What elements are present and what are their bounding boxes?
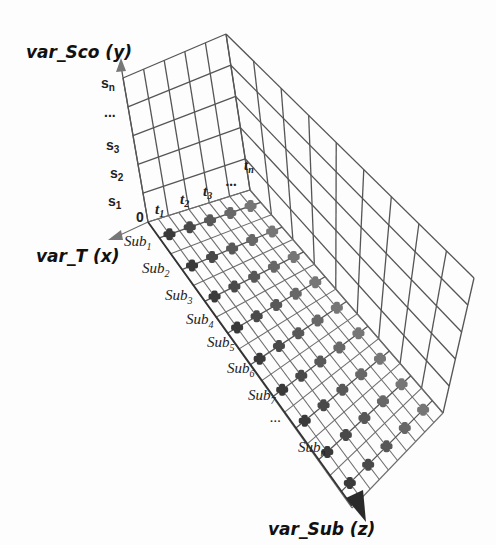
x-axis-arrow-icon [108, 230, 123, 240]
data-marker-icon [184, 221, 196, 233]
back-wall-vertical-line [164, 60, 189, 209]
z-axis-title: var_Sub (z) [268, 519, 375, 539]
data-marker-icon [204, 214, 216, 226]
z-tick-label: Sub2 [142, 260, 170, 279]
data-marker-icon [292, 327, 304, 339]
data-marker-icon [254, 353, 266, 365]
right-wall-vertical-line [443, 278, 474, 413]
back-wall-vertical-line [185, 52, 209, 203]
data-marker-icon [312, 315, 324, 327]
data-marker-icon [224, 207, 236, 219]
data-marker-icon [268, 261, 280, 273]
data-marker-icon [226, 242, 238, 254]
back-wall-vertical-line [144, 69, 169, 215]
z-tick-label: Subn [298, 439, 326, 458]
y-tick-label: s2 [110, 165, 124, 183]
right-wall-vertical-line [309, 115, 315, 264]
z-tick-label: Sub4 [186, 311, 214, 330]
data-marker-icon [251, 310, 263, 322]
y-axis-line [121, 66, 148, 222]
y-axis-title: var_Sco (y) [26, 42, 132, 62]
x-tick-label: ... [226, 173, 237, 189]
data-marker-icon [314, 356, 326, 368]
y-tick-label: s1 [108, 193, 122, 211]
y-tick-label: ... [104, 104, 116, 120]
right-wall-vertical-line [281, 88, 293, 239]
tick-labels: s1s2s3...snt1t2t3...tnSub1Sub2Sub3Sub4Su… [101, 75, 326, 458]
y-tick-label: sn [101, 75, 115, 93]
right-wall-vertical-line [254, 61, 272, 215]
y-tick-label: s3 [106, 137, 120, 155]
x-tick-label: t1 [155, 201, 164, 219]
data-marker-icon [186, 259, 198, 271]
right-wall-vertical-line [357, 170, 364, 314]
floor-line-t [193, 240, 293, 286]
x-axis-title: var_T (x) [36, 246, 119, 266]
data-marker-icon [333, 341, 345, 353]
data-marker-icon [163, 228, 175, 240]
z-tick-label: Sub3 [165, 287, 193, 306]
x-tick-label: t3 [203, 183, 212, 201]
z-axis-arrow-icon [346, 490, 366, 522]
data-marker-icon [295, 370, 307, 382]
back-wall-horizontal-line [138, 128, 240, 165]
x-tick-label: t2 [180, 191, 189, 209]
data-marker-icon [209, 290, 221, 302]
z-tick-label: Sub6 [227, 360, 255, 379]
data-marker-icon [246, 234, 258, 246]
x-tick-label: tn [244, 157, 254, 175]
right-wall-vertical-line [379, 197, 392, 339]
z-tick-label: Sub1 [124, 233, 152, 252]
data-marker-icon [206, 251, 218, 263]
data-marker-icon [273, 340, 285, 352]
origin-label: 0 [136, 209, 144, 225]
data-marker-icon [276, 384, 288, 396]
z-tick-label: ... [270, 409, 281, 425]
floor-grid [148, 190, 443, 508]
diagram-canvas: s1s2s3...snt1t2t3...tnSub1Sub2Sub3Sub4Su… [0, 0, 496, 545]
data-marker-icon [248, 271, 260, 283]
data-marker-icon [270, 299, 282, 311]
right-wall-horizontal-line [226, 34, 474, 278]
floor-line-t [171, 215, 272, 254]
data-marker-icon [290, 288, 302, 300]
z-tick-label: Sub7 [248, 387, 277, 406]
3d-grid-diagram: s1s2s3...snt1t2t3...tnSub1Sub2Sub3Sub4Su… [0, 0, 496, 545]
right-wall-horizontal-line [240, 128, 455, 359]
data-marker-icon [228, 281, 240, 293]
data-marker-icon [231, 322, 243, 334]
right-wall-horizontal-line [231, 65, 468, 305]
back-wall-horizontal-line [133, 96, 236, 135]
